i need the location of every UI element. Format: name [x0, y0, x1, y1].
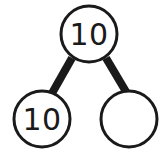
- connector-whole-to-right-part: [106, 58, 128, 95]
- connector-whole-to-left-part: [51, 58, 72, 95]
- whole-node-label: 10: [69, 17, 108, 52]
- left-part-node-label: 10: [22, 102, 61, 137]
- number-bond-diagram: 10 10: [0, 0, 167, 155]
- right-part-node-circle[interactable]: [101, 91, 157, 147]
